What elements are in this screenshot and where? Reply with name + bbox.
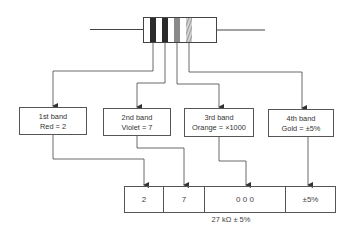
connector-band2 — [137, 42, 165, 107]
band-box-title: 2nd band — [104, 113, 170, 123]
band-3 — [174, 18, 180, 42]
connector-band4 — [189, 42, 302, 108]
result-tolerance: ±5% — [286, 187, 335, 212]
band-box-4: 4th band Gold = ±5% — [268, 109, 334, 137]
result-digit-1: 2 — [125, 187, 164, 212]
band-1 — [150, 18, 156, 42]
band-box-value: Red = 2 — [20, 122, 86, 132]
result-multiplier: 0 0 0 — [205, 187, 286, 212]
band-box-2: 2nd band Violet = 7 — [103, 108, 171, 136]
band-2 — [162, 18, 168, 42]
band-box-value: Violet = 7 — [104, 123, 170, 133]
result-digit-2: 7 — [164, 187, 205, 212]
result-caption: 27 kΩ ± 5% — [196, 215, 266, 224]
band-box-title: 4th band — [269, 114, 333, 124]
band-4 — [186, 18, 192, 42]
band-box-title: 1st band — [20, 112, 86, 122]
band-box-1: 1st band Red = 2 — [19, 107, 87, 135]
result-box: 2 7 0 0 0 ±5% — [124, 186, 336, 213]
connector-result3 — [219, 137, 246, 185]
band-box-title: 3rd band — [185, 113, 253, 123]
band-box-value: Gold = ±5% — [269, 124, 333, 134]
connector-band1 — [53, 42, 153, 106]
connector-band3 — [177, 42, 219, 107]
connector-result1 — [53, 135, 144, 185]
band-box-value: Orange = ×1000 — [185, 123, 253, 133]
band-box-3: 3rd band Orange = ×1000 — [184, 108, 254, 137]
